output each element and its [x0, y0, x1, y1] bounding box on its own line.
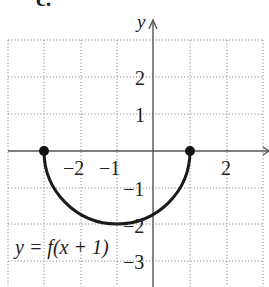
curve-label: y = f(x + 1): [13, 236, 109, 259]
graph-canvas: c. y 2 1 −1 −2 −3 −2 −1 2 y = f(x + 1): [0, 0, 269, 287]
panel-label: c.: [36, 0, 51, 11]
endpoint-left: [39, 146, 49, 156]
endpoint-right: [185, 146, 195, 156]
y-tick-1: 1: [135, 104, 145, 126]
x-tick-neg1: −1: [99, 157, 120, 179]
y-tick-neg1: −1: [123, 178, 144, 200]
x-tick-2: 2: [221, 157, 231, 179]
y-tick-neg2: −2: [123, 215, 144, 237]
y-axis-label: y: [135, 11, 146, 32]
y-tick-2: 2: [135, 67, 145, 89]
y-tick-neg3: −3: [123, 251, 144, 273]
x-tick-neg2: −2: [63, 157, 84, 179]
